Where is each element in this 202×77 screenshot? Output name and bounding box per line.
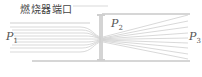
flow-lines-graphic — [0, 0, 202, 77]
p3-label: P3 — [189, 30, 201, 45]
burner-port-flow-diagram: 燃烧器端口 — [0, 0, 202, 77]
p2-label: P2 — [111, 17, 123, 32]
p1-label: P1 — [6, 30, 18, 45]
